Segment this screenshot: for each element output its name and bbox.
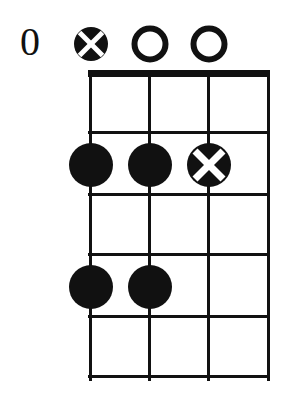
position-label: 0 [10, 22, 50, 62]
fretboard [88, 70, 270, 381]
nut-bar [88, 70, 270, 77]
finger-dot-fret4-string1[interactable] [69, 265, 113, 309]
string-1-muted-circle-x-icon[interactable] [71, 24, 111, 64]
fret-line-4 [88, 315, 270, 318]
finger-dot-fret4-string2[interactable] [128, 265, 172, 309]
string-line-3 [207, 73, 210, 381]
string-line-2 [148, 73, 151, 381]
string-line-1 [89, 73, 92, 381]
finger-dot-fret2-string3-circle-x-icon[interactable] [187, 143, 231, 187]
fret-line-1 [88, 131, 270, 134]
chord-diagram: 0 [0, 0, 296, 395]
finger-dot-fret2-string2[interactable] [128, 143, 172, 187]
string-2-open-circle-icon[interactable] [130, 24, 170, 64]
finger-dot-fret2-string1[interactable] [69, 143, 113, 187]
string-line-4 [267, 73, 270, 381]
fret-line-3 [88, 253, 270, 256]
fret-line-5 [88, 375, 270, 378]
string-3-open-circle-icon[interactable] [189, 24, 229, 64]
fret-line-2 [88, 193, 270, 196]
